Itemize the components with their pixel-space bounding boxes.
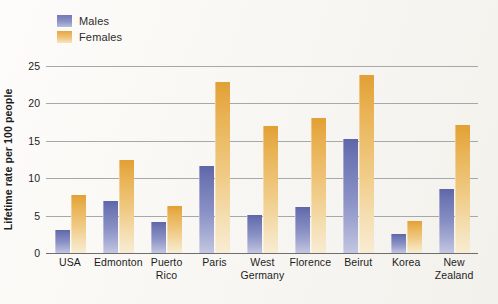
- y-axis-tick-label: 20: [28, 97, 40, 109]
- bar-females-puerto-rico: [167, 206, 182, 253]
- bar-males-paris: [199, 166, 214, 253]
- bar-males-puerto-rico: [151, 222, 166, 253]
- bar-females-korea: [407, 221, 422, 253]
- bar-group: [286, 66, 334, 253]
- bar-chart: Males Females Lifetime rate per 100 peop…: [0, 0, 498, 304]
- bar-group: [334, 66, 382, 253]
- bar-females-florence: [311, 118, 326, 253]
- x-axis-line: [46, 253, 478, 254]
- bar-females-west-germany: [263, 126, 278, 253]
- y-axis-tick-label: 25: [28, 60, 40, 72]
- bar-females-new-zealand: [455, 125, 470, 253]
- bar-males-florence: [295, 207, 310, 253]
- x-axis-label-beirut: Beirut: [334, 256, 382, 281]
- x-axis-label-edmonton: Edmonton: [94, 256, 143, 281]
- x-axis-label-puerto-rico: PuertoRico: [143, 256, 191, 281]
- bar-group: [430, 66, 478, 253]
- x-axis-label-korea: Korea: [382, 256, 430, 281]
- x-axis-label-west-germany: WestGermany: [238, 256, 286, 281]
- plot-area: 0510152025: [46, 66, 478, 253]
- y-axis-tick-label: 5: [34, 210, 40, 222]
- legend-swatch-males-icon: [57, 15, 72, 27]
- bar-females-usa: [71, 195, 86, 253]
- bar-group: [94, 66, 142, 253]
- bar-males-korea: [391, 234, 406, 253]
- x-axis-label-new-zealand: NewZealand: [430, 256, 478, 281]
- bar-group: [238, 66, 286, 253]
- legend-label-females: Females: [79, 31, 122, 43]
- bar-males-edmonton: [103, 201, 118, 253]
- bar-females-beirut: [359, 75, 374, 253]
- y-axis-tick-label: 15: [28, 135, 40, 147]
- y-axis-title: Lifetime rate per 100 people: [2, 62, 16, 257]
- bar-males-beirut: [343, 139, 358, 253]
- bar-males-usa: [55, 230, 70, 253]
- bar-males-west-germany: [247, 215, 262, 253]
- bar-group: [382, 66, 430, 253]
- y-axis-tick-label: 10: [28, 172, 40, 184]
- chart-legend: Males Females: [57, 14, 122, 43]
- x-axis-label-usa: USA: [46, 256, 94, 281]
- legend-item-males: Males: [57, 14, 122, 27]
- x-axis-label-paris: Paris: [191, 256, 239, 281]
- x-axis-labels: USAEdmontonPuertoRicoParisWestGermanyFlo…: [46, 256, 478, 281]
- legend-item-females: Females: [57, 30, 122, 43]
- bar-group: [190, 66, 238, 253]
- bar-males-new-zealand: [439, 189, 454, 253]
- legend-swatch-females-icon: [57, 31, 72, 43]
- bar-group: [46, 66, 94, 253]
- x-axis-label-florence: Florence: [286, 256, 334, 281]
- bar-females-edmonton: [119, 160, 134, 254]
- bar-groups: [46, 66, 478, 253]
- bar-females-paris: [215, 82, 230, 253]
- legend-label-males: Males: [79, 15, 109, 27]
- y-axis-tick-label: 0: [34, 247, 40, 259]
- bar-group: [142, 66, 190, 253]
